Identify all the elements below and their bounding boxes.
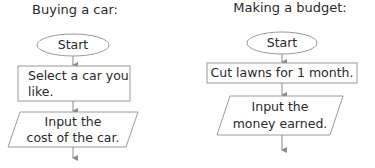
input-label-right-2: money earned. [217, 116, 343, 132]
flowchart-title-right: Making a budget: [230, 0, 350, 15]
flowchart-title-left: Buying a car: [30, 2, 120, 17]
start-label-right: Start [247, 35, 317, 51]
start-label-left: Start [37, 37, 109, 53]
input-label-left-2: cost of the car. [8, 130, 138, 146]
input-label-right-1: Input the [217, 99, 343, 115]
process-label-right: Cut lawns for 1 month. [207, 65, 357, 81]
process-label-left-1: Select a car you [28, 68, 129, 84]
input-label-left-1: Input the [8, 114, 138, 130]
process-label-left-2: like. [28, 84, 53, 100]
